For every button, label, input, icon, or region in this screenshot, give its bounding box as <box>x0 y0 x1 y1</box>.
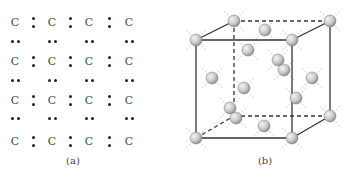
electron-dot <box>17 79 20 82</box>
electron-dot <box>69 17 72 20</box>
electron-dot <box>108 103 111 106</box>
electron-dot <box>108 136 111 139</box>
electron-dot <box>131 40 134 43</box>
electron-dot <box>11 79 14 82</box>
electron-dot <box>108 95 111 98</box>
carbon-atom-sphere <box>230 112 242 124</box>
electron-dot <box>32 144 35 147</box>
electron-dot <box>32 56 35 59</box>
electron-dot <box>69 103 72 106</box>
carbon-atom-sphere <box>238 82 250 94</box>
electron-dot <box>108 56 111 59</box>
carbon-atom-label: C <box>85 136 93 147</box>
electron-dot <box>91 79 94 82</box>
electron-dot <box>48 117 51 120</box>
electron-dot <box>11 117 14 120</box>
carbon-atom-sphere <box>242 44 254 56</box>
electron-dot <box>131 79 134 82</box>
electron-dot <box>91 40 94 43</box>
electron-dot <box>69 144 72 147</box>
carbon-atom-sphere <box>190 34 202 46</box>
electron-dot <box>91 117 94 120</box>
electron-dot <box>108 64 111 67</box>
electron-dot <box>69 136 72 139</box>
electron-dot <box>54 117 57 120</box>
electron-dot <box>69 56 72 59</box>
carbon-atom-sphere <box>228 15 240 27</box>
electron-dot <box>69 64 72 67</box>
carbon-atom-sphere <box>258 120 270 132</box>
electron-dot <box>32 136 35 139</box>
electron-dot <box>32 95 35 98</box>
electron-dot <box>125 117 128 120</box>
electron-dot <box>85 40 88 43</box>
carbon-atom-label: C <box>125 17 133 28</box>
electron-dot <box>17 117 20 120</box>
electron-dot <box>108 25 111 28</box>
carbon-atom-sphere <box>278 64 290 76</box>
electron-dot <box>85 79 88 82</box>
carbon-atom-sphere <box>306 72 318 84</box>
carbon-atom-sphere <box>290 92 302 104</box>
carbon-atom-label: C <box>125 95 133 106</box>
electron-dot <box>108 17 111 20</box>
electron-dot <box>48 40 51 43</box>
electron-dot <box>125 79 128 82</box>
carbon-atom-label: C <box>48 136 56 147</box>
carbon-atom-label: C <box>48 95 56 106</box>
carbon-atom-sphere <box>324 15 336 27</box>
electron-dot <box>17 40 20 43</box>
electron-dot <box>11 40 14 43</box>
electron-dot <box>48 79 51 82</box>
carbon-atom-sphere <box>259 24 271 36</box>
electron-dot <box>69 95 72 98</box>
electron-dot <box>131 117 134 120</box>
carbon-atom-label: C <box>11 17 19 28</box>
carbon-atom-label: C <box>85 56 93 67</box>
electron-dot <box>32 25 35 28</box>
electron-dot <box>54 79 57 82</box>
electron-dot <box>69 25 72 28</box>
electron-dot <box>32 17 35 20</box>
carbon-atom-label: C <box>85 17 93 28</box>
carbon-atom-sphere <box>324 110 336 122</box>
electron-dot <box>108 144 111 147</box>
electron-dot <box>85 117 88 120</box>
carbon-atom-label: C <box>125 136 133 147</box>
carbon-atom-sphere <box>286 132 298 144</box>
electron-dot <box>32 103 35 106</box>
carbon-atom-sphere <box>190 132 202 144</box>
carbon-atom-label: C <box>48 56 56 67</box>
electron-dot <box>54 40 57 43</box>
carbon-atom-label: C <box>11 56 19 67</box>
carbon-atom-label: C <box>11 136 19 147</box>
electron-dot <box>125 40 128 43</box>
caption-b: (b) <box>258 155 272 166</box>
carbon-atom-sphere <box>206 72 218 84</box>
carbon-atom-label: C <box>48 17 56 28</box>
carbon-atom-label: C <box>85 95 93 106</box>
carbon-atom-label: C <box>11 95 19 106</box>
electron-dot <box>32 64 35 67</box>
carbon-atom-label: C <box>125 56 133 67</box>
carbon-atom-sphere <box>286 34 298 46</box>
